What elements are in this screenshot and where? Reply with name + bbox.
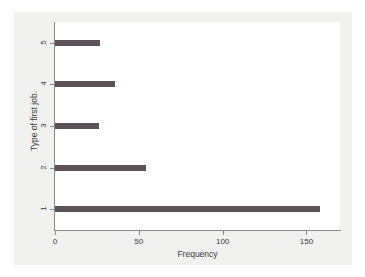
y-axis-title: Type of first job. bbox=[29, 41, 39, 201]
x-tick-mark bbox=[55, 231, 56, 235]
bar bbox=[55, 206, 320, 212]
y-tick-label: 3 bbox=[39, 121, 48, 131]
y-tick-mark bbox=[50, 126, 54, 127]
bar bbox=[55, 165, 146, 171]
x-tick-mark bbox=[223, 231, 224, 235]
y-tick-mark bbox=[50, 168, 54, 169]
chart-screenshot: 12345 050100150 Frequency Type of first … bbox=[0, 0, 365, 277]
y-tick-label: 4 bbox=[39, 79, 48, 89]
x-tick-label: 0 bbox=[40, 237, 70, 246]
x-tick-mark bbox=[139, 231, 140, 235]
bar bbox=[55, 81, 115, 87]
x-tick-label: 100 bbox=[208, 237, 238, 246]
x-tick-label: 150 bbox=[291, 237, 321, 246]
y-tick-label: 5 bbox=[39, 37, 48, 47]
y-tick-mark bbox=[50, 43, 54, 44]
x-axis-title: Frequency bbox=[55, 249, 340, 259]
bar bbox=[55, 40, 100, 46]
y-tick-label: 2 bbox=[39, 162, 48, 172]
bar bbox=[55, 123, 99, 129]
x-axis-line bbox=[54, 230, 341, 231]
y-tick-mark bbox=[50, 84, 54, 85]
y-tick-mark bbox=[50, 209, 54, 210]
y-tick-label: 1 bbox=[39, 204, 48, 214]
x-tick-mark bbox=[306, 231, 307, 235]
x-tick-label: 50 bbox=[124, 237, 154, 246]
